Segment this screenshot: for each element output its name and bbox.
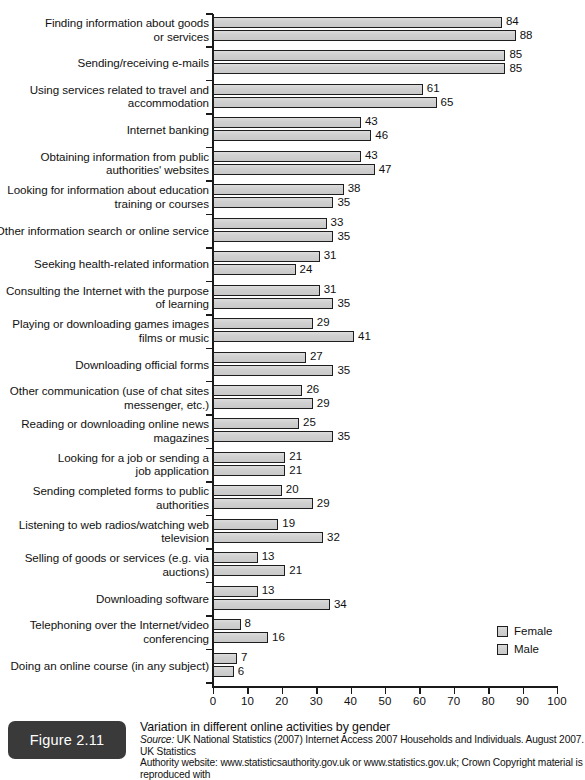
category-label: Obtaining information from publicauthori… — [0, 150, 209, 177]
x-tick-40 — [351, 687, 352, 694]
bar-value-female: 43 — [365, 150, 378, 161]
category-label: Other communication (use of chat sitesme… — [0, 384, 209, 411]
x-tick-20 — [282, 687, 283, 694]
bar-female — [213, 151, 361, 162]
category-label: Downloading software — [0, 585, 209, 606]
category-label: Downloading official forms — [0, 351, 209, 372]
figure-title: Variation in different online activities… — [140, 720, 585, 734]
x-tick-80 — [488, 687, 489, 694]
bar-value-male: 41 — [358, 331, 371, 342]
category-group: Looking for a job or sending ajob applic… — [0, 451, 585, 481]
legend-swatch-icon — [497, 626, 508, 637]
source-label: Source: — [140, 734, 174, 745]
bar-male — [213, 465, 285, 476]
category-label: Using services related to travel andacco… — [0, 83, 209, 110]
bar-female — [213, 385, 302, 396]
category-label: Seeking health-related information — [0, 250, 209, 271]
category-label-line: films or music — [0, 331, 209, 345]
category-group: Sending completed forms to publicauthori… — [0, 484, 585, 514]
category-label-line: or services — [0, 30, 209, 44]
x-tick-70 — [454, 687, 455, 694]
y-tick-6 — [206, 214, 213, 216]
bar-chart-plot: 0102030405060708090100 Finding informati… — [0, 0, 585, 712]
category-label-line: authorities' websites — [0, 163, 209, 177]
bar-male — [213, 197, 333, 208]
bar-value-female: 19 — [282, 518, 295, 529]
y-tick-3 — [206, 113, 213, 115]
bar-male — [213, 298, 333, 309]
bar-male — [213, 331, 354, 342]
bar-female — [213, 218, 327, 229]
bar-male — [213, 565, 285, 576]
category-label-line: authorities — [0, 498, 209, 512]
x-tick-100 — [557, 687, 558, 694]
figure-number-badge: Figure 2.11 — [8, 721, 126, 759]
bar-female — [213, 519, 278, 530]
category-label-line: Downloading software — [0, 592, 209, 606]
category-label: Consulting the Internet with the purpose… — [0, 284, 209, 311]
bar-value-female: 25 — [303, 417, 316, 428]
bar-value-male: 46 — [375, 130, 388, 141]
bar-female — [213, 17, 502, 28]
category-group: Other information search or online servi… — [0, 217, 585, 247]
y-tick-9 — [206, 314, 213, 316]
y-tick-11 — [206, 381, 213, 383]
category-group: Finding information about goodsor servic… — [0, 16, 585, 46]
bar-female — [213, 318, 313, 329]
category-label-line: Doing an online course (in any subject) — [0, 659, 209, 673]
bar-value-female: 8 — [245, 618, 251, 629]
category-label: Sending completed forms to publicauthori… — [0, 484, 209, 511]
y-tick-0 — [206, 13, 213, 15]
figure-caption-text: Variation in different online activities… — [140, 720, 585, 780]
category-label-line: Downloading official forms — [0, 358, 209, 372]
x-tick-30 — [316, 687, 317, 694]
category-group: Obtaining information from publicauthori… — [0, 150, 585, 180]
x-tick-10 — [247, 687, 248, 694]
bar-value-male: 35 — [337, 365, 350, 376]
category-label-line: Using services related to travel and — [0, 83, 209, 97]
category-group: Using services related to travel andacco… — [0, 83, 585, 113]
bar-female — [213, 452, 285, 463]
legend-item-male: Male — [497, 643, 552, 655]
bar-female — [213, 251, 320, 262]
bar-value-female: 13 — [262, 585, 275, 596]
bar-value-female: 31 — [324, 250, 337, 261]
category-label-line: job application — [0, 464, 209, 478]
bar-value-female: 29 — [317, 317, 330, 328]
category-label-line: of learning — [0, 297, 209, 311]
bar-male — [213, 30, 516, 41]
category-label-line: television — [0, 531, 209, 545]
bar-value-female: 61 — [427, 83, 440, 94]
category-label-line: Listening to web radios/watching web — [0, 518, 209, 532]
category-label: Finding information about goodsor servic… — [0, 16, 209, 43]
y-tick-5 — [206, 180, 213, 182]
legend-label: Male — [514, 643, 539, 655]
category-label-line: Seeking health-related information — [0, 257, 209, 271]
bar-male — [213, 130, 371, 141]
y-tick-7 — [206, 247, 213, 249]
figure-source-line-2: Authority website: www.statisticsauthori… — [140, 757, 585, 780]
category-label: Internet banking — [0, 116, 209, 137]
bar-value-female: 33 — [331, 217, 344, 228]
category-group: Downloading software1334 — [0, 585, 585, 615]
bar-value-male: 21 — [289, 465, 302, 476]
bar-value-male: 88 — [520, 30, 533, 41]
category-label-line: conferencing — [0, 632, 209, 646]
bar-value-female: 7 — [241, 652, 247, 663]
category-label-line: Selling of goods or services (e.g. via — [0, 551, 209, 565]
x-tick-0 — [213, 687, 214, 694]
bar-value-male: 6 — [238, 666, 244, 677]
figure-source-line-1: Source: UK National Statistics (2007) In… — [140, 734, 585, 757]
bar-male — [213, 63, 505, 74]
bar-female — [213, 552, 258, 563]
y-tick-17 — [206, 582, 213, 584]
bar-value-female: 31 — [324, 284, 337, 295]
category-label-line: Telephoning over the Internet/video — [0, 618, 209, 632]
legend-swatch-icon — [497, 644, 508, 655]
bar-female — [213, 352, 306, 363]
category-label-line: Sending completed forms to public — [0, 484, 209, 498]
category-label-line: Obtaining information from public — [0, 150, 209, 164]
bar-value-male: 85 — [509, 63, 522, 74]
y-tick-12 — [206, 414, 213, 416]
y-tick-20 — [206, 682, 213, 684]
